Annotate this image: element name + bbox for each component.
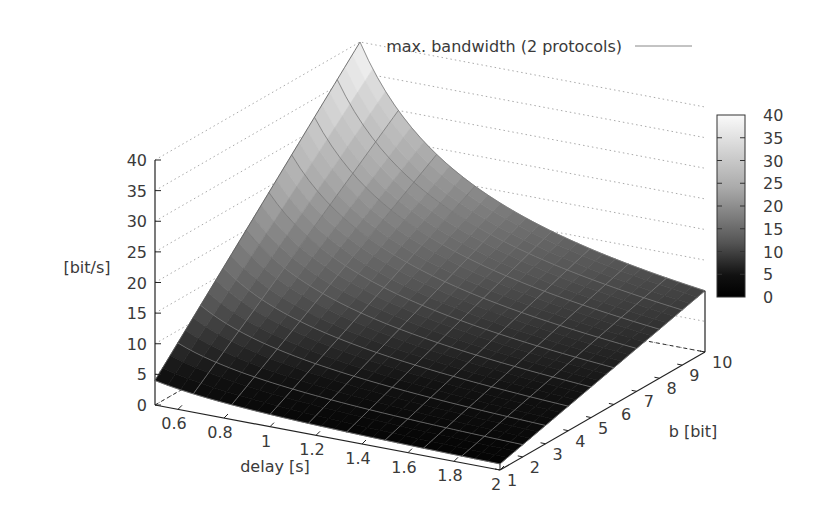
x-axis-label: delay [s] xyxy=(240,457,310,476)
z-tick-label: 30 xyxy=(127,212,147,231)
y-tick xyxy=(541,443,546,444)
z-tick-label: 25 xyxy=(127,243,147,262)
z-tick-label: 35 xyxy=(127,182,147,201)
z-axis-ticks: 0510152025303540 xyxy=(127,151,161,415)
z-tick-label: 5 xyxy=(137,365,147,384)
legend-label: max. bandwidth (2 protocols) xyxy=(386,37,622,56)
z-tick-label: 10 xyxy=(127,335,147,354)
z-tick-label: 40 xyxy=(127,151,147,170)
y-tick-label: 7 xyxy=(644,392,654,411)
x-tick-label: 2 xyxy=(491,475,501,494)
colorbar-tick-label: 25 xyxy=(763,174,783,193)
colorbar-tick-label: 20 xyxy=(763,197,783,216)
x-tick xyxy=(224,414,228,418)
x-tick xyxy=(408,449,412,453)
z-axis-label: [bit/s] xyxy=(63,258,110,277)
legend: max. bandwidth (2 protocols) xyxy=(386,37,692,56)
x-tick xyxy=(270,423,274,427)
y-tick-label: 2 xyxy=(530,458,540,477)
y-tick xyxy=(518,456,523,457)
x-tick-label: 1.6 xyxy=(391,458,416,477)
y-tick xyxy=(586,417,591,418)
x-tick-label: 0.8 xyxy=(207,423,232,442)
colorbar-tick-label: 10 xyxy=(763,243,783,262)
y-axis-label: b [bit] xyxy=(669,422,718,441)
x-tick xyxy=(454,457,458,461)
y-tick-label: 8 xyxy=(666,379,676,398)
x-tick xyxy=(178,405,182,409)
colorbar-tick-label: 35 xyxy=(763,129,783,148)
x-tick-label: 0.6 xyxy=(161,414,186,433)
z-tick-label: 15 xyxy=(127,304,147,323)
colorbar-tick-label: 15 xyxy=(763,220,783,239)
y-tick xyxy=(495,469,500,470)
z-tick-label: 0 xyxy=(137,396,147,415)
x-tick-label: 1 xyxy=(261,432,271,451)
y-tick xyxy=(632,390,637,391)
y-tick xyxy=(677,364,682,365)
y-tick xyxy=(654,377,659,378)
colorbar-tick-label: 40 xyxy=(763,106,783,125)
x-tick-label: 1.4 xyxy=(345,449,370,468)
colorbar-tick-label: 0 xyxy=(763,288,773,307)
y-tick-label: 3 xyxy=(553,445,563,464)
z-tick-label: 20 xyxy=(127,274,147,293)
colorbar-tick-label: 5 xyxy=(763,265,773,284)
y-tick-label: 1 xyxy=(507,471,517,490)
y-tick xyxy=(609,403,614,404)
colorbar-tick-label: 30 xyxy=(763,152,783,171)
y-tick xyxy=(563,430,568,431)
surface-chart: 0510152025303540 0.60.811.21.41.61.82 12… xyxy=(0,0,830,517)
x-tick xyxy=(362,440,366,444)
x-tick xyxy=(316,431,320,435)
y-tick-label: 5 xyxy=(598,419,608,438)
colorbar: 0510152025303540 xyxy=(717,106,783,307)
y-tick-label: 6 xyxy=(621,405,631,424)
y-tick-label: 9 xyxy=(689,366,699,385)
z-gridline xyxy=(155,42,705,160)
x-tick-label: 1.8 xyxy=(437,466,462,485)
surface-plot xyxy=(155,42,705,464)
y-tick xyxy=(700,351,705,352)
y-tick-label: 4 xyxy=(575,432,585,451)
y-tick-label: 10 xyxy=(712,353,732,372)
